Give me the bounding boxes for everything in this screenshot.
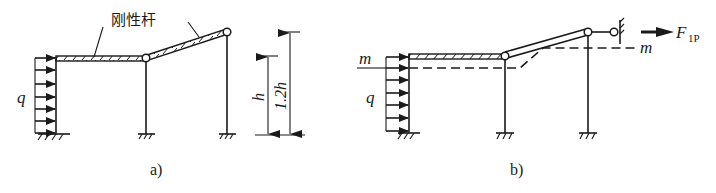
hinge-middle (142, 54, 150, 62)
rigid-bar-horizontal-b (409, 54, 502, 59)
hinge-middle-b (501, 52, 509, 60)
rigid-bar-label: 刚性杆 (111, 11, 156, 29)
rigid-bar-horizontal (56, 56, 144, 61)
fixed-support-middle-b (496, 133, 514, 139)
leader-line-right (188, 22, 199, 37)
fixed-support-middle (138, 134, 155, 139)
force-arrow-f1p (641, 27, 674, 37)
caption-b: b) (510, 161, 523, 179)
distributed-load-q (35, 58, 55, 133)
caption-a: a) (150, 161, 162, 179)
section-label-m-left: m (359, 49, 371, 68)
added-link-restraint (592, 18, 624, 44)
dim-label-h: h (250, 93, 267, 101)
fixed-support-right-b (579, 133, 597, 139)
load-label-q: q (17, 88, 26, 107)
fixed-support-left-b (398, 133, 420, 139)
panel-a: q (17, 11, 305, 179)
section-label-m-right: m (640, 38, 652, 57)
rigid-bar-inclined-b (505, 29, 588, 58)
fixed-support-left (38, 134, 70, 140)
force-label-f: F (675, 23, 687, 42)
fixed-support-right (219, 134, 236, 139)
hinge-right (223, 28, 231, 36)
distributed-load-q-b (386, 57, 408, 131)
structural-frame-figure: q (0, 0, 716, 193)
hinge-right-b (584, 28, 592, 36)
load-label-q-b: q (366, 88, 375, 107)
rigid-bar-inclined (147, 29, 228, 60)
leader-line-left (94, 27, 103, 57)
panel-b: m q (357, 18, 700, 179)
force-label-subscript: 1P (688, 32, 700, 44)
dim-label-1.2h: 1.2h (272, 82, 289, 110)
